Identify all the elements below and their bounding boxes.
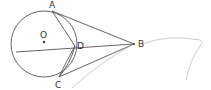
label-d: D bbox=[77, 41, 84, 51]
faint-curve-right bbox=[142, 38, 202, 80]
segment-ab bbox=[52, 11, 134, 44]
label-c: C bbox=[55, 80, 61, 90]
segment-ad bbox=[52, 11, 75, 46]
label-o: O bbox=[40, 30, 47, 40]
segment-dc-inner bbox=[59, 46, 75, 77]
label-b: B bbox=[138, 39, 144, 49]
geometry-diagram: A O D C B bbox=[0, 0, 211, 90]
segment-cb bbox=[59, 44, 134, 77]
center-dot-o bbox=[43, 41, 45, 43]
circle-o bbox=[11, 11, 77, 77]
point-b-marker bbox=[133, 43, 135, 45]
label-a: A bbox=[49, 0, 56, 10]
